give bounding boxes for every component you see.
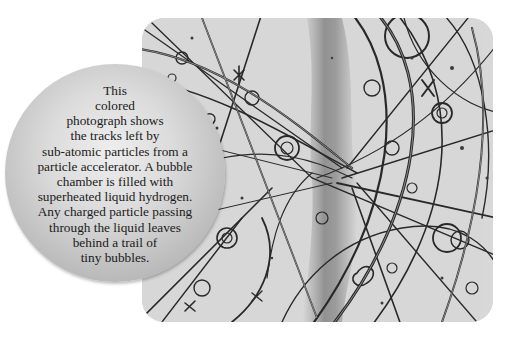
- caption-line: sub-atomic particles from a: [15, 144, 215, 159]
- caption-text: This colored photograph shows the tracks…: [15, 83, 215, 265]
- caption-line: colored: [15, 98, 215, 113]
- caption-line: Any charged particle passing: [15, 204, 215, 219]
- caption-line: through the liquid leaves: [15, 220, 215, 235]
- caption-line: particle accelerator. A bubble: [15, 159, 215, 174]
- caption-line: the tracks left by: [15, 128, 215, 143]
- caption-line: tiny bubbles.: [15, 250, 215, 265]
- caption-bubble: This colored photograph shows the tracks…: [5, 64, 225, 282]
- caption-line: photograph shows: [15, 113, 215, 128]
- caption-line: superheated liquid hydrogen.: [15, 189, 215, 204]
- caption-line: behind a trail of: [15, 235, 215, 250]
- figure: This colored photograph shows the tracks…: [0, 0, 507, 338]
- caption-line: chamber is filled with: [15, 174, 215, 189]
- caption-line: This: [15, 83, 215, 98]
